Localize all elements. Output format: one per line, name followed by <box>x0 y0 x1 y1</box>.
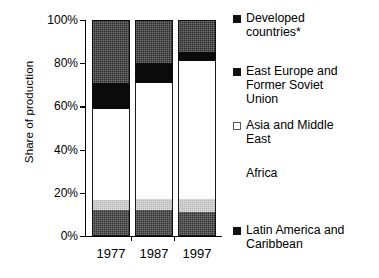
legend-swatch-latin-icon <box>233 227 241 235</box>
legend-label-africa: Africa <box>246 166 277 180</box>
legend-label-developed: Developed countries* <box>246 11 305 39</box>
legend-label-asia: Asia and Middle East <box>246 118 334 146</box>
legend-item-developed[interactable]: Developed countries* <box>233 11 305 39</box>
segment-1987-easteurope <box>135 63 173 82</box>
segment-1977-easteurope <box>92 83 130 109</box>
y-axis-line <box>85 20 86 237</box>
y-tick-label-100: 100% <box>47 14 78 26</box>
x-tick-label-1977: 1977 <box>88 246 134 261</box>
segment-1997-easteurope <box>178 52 216 61</box>
segment-1977-africa <box>92 200 130 210</box>
y-tick-label-60: 60% <box>54 100 78 112</box>
legend-item-latin[interactable]: Latin America and Caribbean <box>233 223 344 251</box>
y-tick-label-80: 80% <box>54 57 78 69</box>
legend-item-easteurope[interactable]: East Europe and Former Soviet Union <box>233 64 338 107</box>
x-tick-label-1987: 1987 <box>131 246 177 261</box>
bar-1987 <box>135 20 173 236</box>
legend-item-asia[interactable]: Asia and Middle East <box>233 118 334 146</box>
y-tick-label-20: 20% <box>54 187 78 199</box>
legend-swatch-asia-icon <box>233 122 241 130</box>
legend-label-easteurope: East Europe and Former Soviet Union <box>246 64 338 107</box>
segment-1997-latin <box>178 212 216 236</box>
legend-swatch-africa-icon <box>233 170 241 178</box>
x-axis-line <box>85 236 222 237</box>
segment-1977-developed <box>92 20 130 83</box>
y-axis-title: Share of production <box>23 27 35 197</box>
bar-1977 <box>92 20 130 236</box>
stacked-bar-chart: Share of production 0% 20% 40% 60% 80% 1… <box>0 0 379 278</box>
segment-1997-africa <box>178 199 216 212</box>
legend-swatch-developed-icon <box>233 15 241 23</box>
segment-1997-developed <box>178 20 216 52</box>
legend-swatch-easteurope-icon <box>233 68 241 76</box>
segment-1997-asia <box>178 61 216 199</box>
legend-item-africa[interactable]: Africa <box>233 166 277 180</box>
x-tick-2 <box>174 236 175 241</box>
y-tick-label-0: 0% <box>61 230 78 242</box>
x-tick-label-1997: 1997 <box>174 246 220 261</box>
legend-label-latin: Latin America and Caribbean <box>246 223 344 251</box>
x-tick-1 <box>131 236 132 241</box>
segment-1987-developed <box>135 20 173 63</box>
segment-1977-asia <box>92 109 130 201</box>
bar-1997 <box>178 20 216 236</box>
segment-1987-africa <box>135 199 173 210</box>
segment-1977-latin <box>92 210 130 236</box>
y-tick-label-40: 40% <box>54 144 78 156</box>
segment-1987-asia <box>135 83 173 200</box>
plot-area: 0% 20% 40% 60% 80% 100% <box>86 20 222 236</box>
segment-1987-latin <box>135 210 173 236</box>
